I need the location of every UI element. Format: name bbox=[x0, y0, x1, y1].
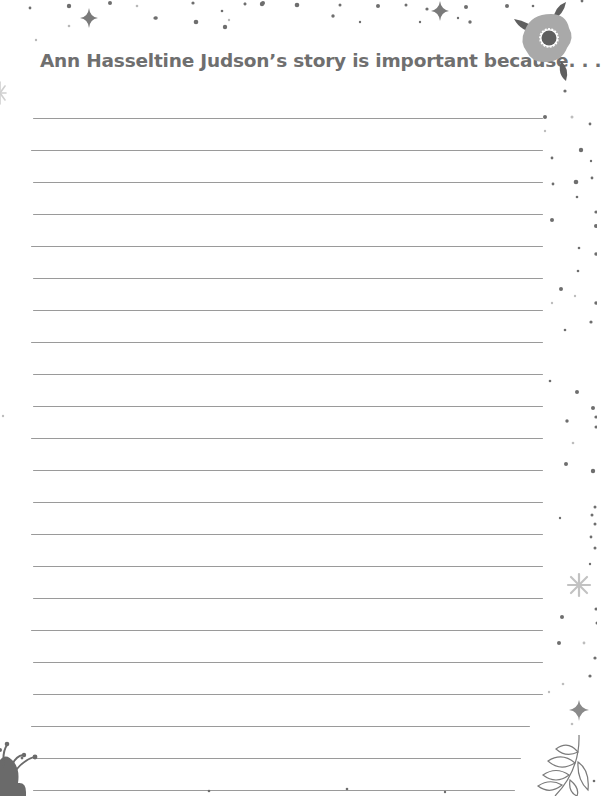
writing-line bbox=[33, 598, 543, 599]
writing-line bbox=[33, 758, 521, 759]
writing-line bbox=[33, 566, 543, 567]
writing-line bbox=[31, 630, 543, 631]
writing-line bbox=[33, 470, 543, 471]
writing-line bbox=[33, 118, 543, 119]
writing-line bbox=[33, 310, 543, 311]
writing-line bbox=[33, 374, 543, 375]
writing-line bbox=[33, 502, 543, 503]
writing-line bbox=[31, 342, 543, 343]
writing-line bbox=[31, 726, 530, 727]
writing-line bbox=[31, 150, 543, 151]
writing-line bbox=[33, 406, 543, 407]
writing-line bbox=[33, 662, 543, 663]
writing-line bbox=[33, 278, 543, 279]
writing-line bbox=[33, 182, 543, 183]
writing-line bbox=[33, 214, 543, 215]
writing-line bbox=[31, 534, 543, 535]
writing-line bbox=[31, 438, 543, 439]
writing-line bbox=[31, 246, 543, 247]
writing-line bbox=[33, 790, 515, 791]
writing-line bbox=[33, 694, 543, 695]
